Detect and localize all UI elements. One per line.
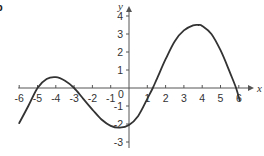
x-axis-label: x: [256, 82, 262, 94]
function-graph: xy -6-5-4-3-2-11234560-3-2-11234: [0, 0, 264, 156]
x-tick-label: 4: [199, 92, 205, 104]
x-tick-label: -4: [51, 92, 60, 104]
axes: xy: [18, 0, 262, 148]
y-tick-label: 1: [117, 64, 123, 76]
x-tick-label: -3: [69, 92, 78, 104]
y-axis-arrow-icon: [126, 6, 132, 12]
x-tick-label: 3: [181, 92, 187, 104]
x-tick-label: 2: [163, 92, 169, 104]
y-tick-label: 2: [117, 46, 123, 58]
y-tick-label: -1: [114, 100, 123, 112]
y-tick-label: 4: [117, 10, 123, 22]
origin-label: 0: [118, 88, 124, 100]
y-tick-label: 3: [117, 28, 123, 40]
x-tick-label: -6: [15, 92, 24, 104]
y-tick-label: -3: [114, 136, 123, 148]
x-axis-arrow-icon: [248, 85, 254, 91]
x-tick-label: -2: [88, 92, 97, 104]
x-tick-label: 5: [218, 92, 224, 104]
